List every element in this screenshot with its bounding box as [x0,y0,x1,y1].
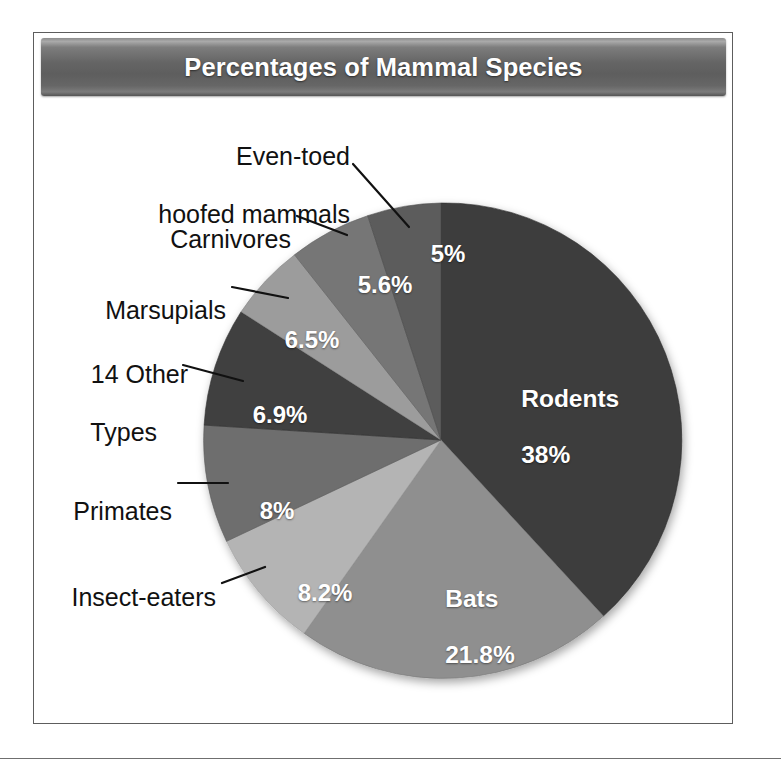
value-insect-eaters-text: 8.2% [298,579,353,606]
value-even-toed: 5% [404,212,465,296]
value-rodents: Rodents 38% [494,357,619,497]
value-insect-eaters: 8.2% [271,551,352,635]
label-14-other-types: 14 Other Types [63,331,193,476]
value-carnivores-text: 5.6% [358,271,413,298]
pie-chart: Even-toed hoofed mammals Carnivores Mars… [0,0,781,776]
value-even-toed-text: 5% [431,240,466,267]
label-carnivores-text: Carnivores [170,225,291,253]
label-insect-eaters: Insect-eaters [18,554,216,641]
value-carnivores: 5.6% [331,243,412,327]
value-other-types-text: 6.9% [253,401,308,428]
value-bats-value: 21.8% [445,641,514,668]
value-primates: 8% [233,469,294,553]
value-bats: Bats 21.8% [418,557,515,697]
label-insect-eaters-text: Insect-eaters [71,583,216,611]
label-other-types-line1: 14 Other [91,360,188,388]
page-bottom-rule [0,758,781,759]
value-rodents-name: Rodents [521,385,619,412]
value-primates-text: 8% [260,497,295,524]
value-marsupials-text: 6.5% [285,326,340,353]
value-other-types: 6.9% [226,373,307,457]
value-bats-name: Bats [445,585,498,612]
label-primates-text: Primates [73,497,172,525]
value-rodents-value: 38% [521,441,570,468]
label-even-toed-line1: Even-toed [236,142,350,170]
label-other-types-line2: Types [90,418,157,446]
label-primates: Primates [40,468,172,555]
value-marsupials: 6.5% [258,298,339,382]
label-marsupials-text: Marsupials [105,296,226,324]
